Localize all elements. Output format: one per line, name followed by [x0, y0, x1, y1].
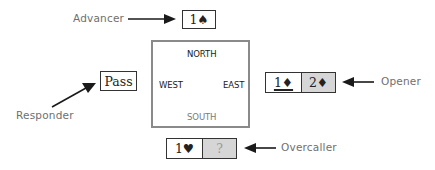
overcaller-bid-1: 1♥	[167, 139, 202, 158]
opener-label: Opener	[381, 75, 421, 87]
west-seat-label: WEST	[159, 80, 183, 90]
bridge-table: NORTH WEST EAST SOUTH	[151, 40, 250, 128]
advancer-bid-1: 1♠	[183, 11, 215, 28]
south-seat-label: SOUTH	[187, 112, 216, 122]
opener-bid-2: 2♦	[301, 73, 335, 92]
overcaller-bid-unknown: ?	[202, 139, 236, 158]
east-seat-label: EAST	[223, 80, 244, 90]
arrow-up-right-icon-responder	[52, 83, 96, 107]
advancer-bid-box: 1♠	[182, 10, 216, 29]
arrow-left-icon-opener	[342, 77, 374, 87]
responder-bid-box: Pass	[100, 71, 137, 91]
responder-bid-1: Pass	[101, 72, 136, 90]
north-seat-label: NORTH	[187, 49, 216, 59]
arrow-left-icon-overcaller	[244, 143, 276, 153]
responder-label: Responder	[16, 109, 74, 121]
opener-bid-1: 1♦	[266, 73, 301, 92]
overcaller-bid-box: 1♥ ?	[166, 138, 237, 159]
arrow-right-icon-advancer	[128, 14, 176, 24]
advancer-label: Advancer	[73, 12, 124, 24]
opener-bid-box: 1♦ 2♦	[265, 72, 336, 93]
overcaller-label: Overcaller	[281, 141, 337, 153]
